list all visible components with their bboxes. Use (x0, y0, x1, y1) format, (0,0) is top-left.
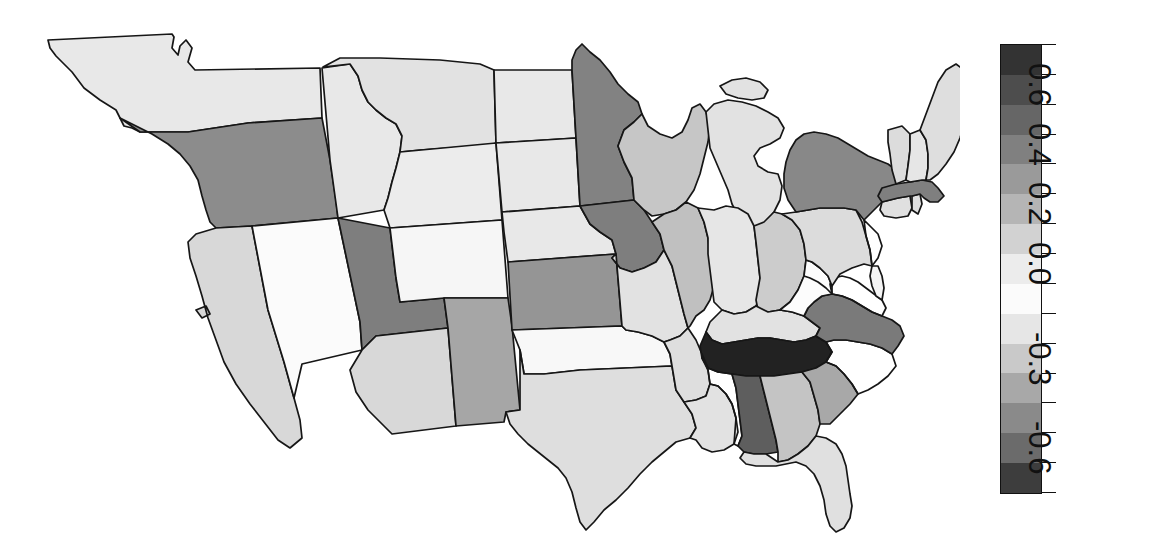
colorbar-tick-label: 0.0 (1021, 242, 1057, 285)
state-CO[interactable] (390, 220, 508, 302)
colorbar-tick-label: -0.6 (1021, 421, 1057, 474)
us-map-svg (20, 10, 960, 535)
colorbar-band (1001, 284, 1041, 314)
colorbar: 0.60.40.20.0-0.3-0.6 (995, 30, 1155, 510)
state-OR[interactable] (120, 118, 338, 228)
state-polygons (48, 34, 960, 532)
choropleth-figure: 0.60.40.20.0-0.3-0.6 (0, 0, 1169, 542)
colorbar-tick (1041, 313, 1056, 314)
state-KS[interactable] (508, 254, 622, 330)
state-ND[interactable] (494, 70, 576, 143)
state-WY[interactable] (384, 143, 502, 228)
colorbar-tick-label: -0.3 (1021, 332, 1057, 385)
colorbar-tick-label: 0.4 (1021, 123, 1057, 166)
colorbar-tick-label: 0.6 (1021, 63, 1057, 106)
state-MI[interactable] (706, 78, 784, 228)
colorbar-tick-labels: 0.60.40.20.0-0.3-0.6 (1057, 30, 1147, 510)
colorbar-tick (1041, 44, 1056, 45)
state-TX[interactable] (506, 350, 696, 530)
colorbar-tick-label: 0.2 (1021, 182, 1057, 225)
state-SD[interactable] (496, 138, 580, 212)
state-RI[interactable] (912, 194, 922, 214)
state-NM[interactable] (444, 298, 520, 426)
colorbar-tick (1041, 402, 1056, 403)
colorbar-tick (1041, 492, 1056, 493)
state-WA[interactable] (48, 34, 322, 132)
us-map-panel (20, 10, 960, 535)
state-DE[interactable] (870, 266, 884, 300)
